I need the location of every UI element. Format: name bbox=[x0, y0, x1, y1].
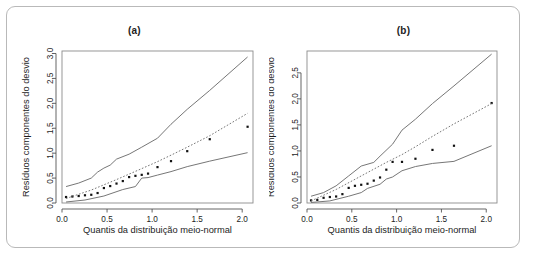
data-point bbox=[354, 185, 356, 187]
data-point bbox=[90, 194, 92, 196]
y-tick-label: 0.5 bbox=[46, 172, 55, 184]
panel-a-plot: 0.00.51.01.52.00.00.51.01.52.02.53.0Quan… bbox=[0, 0, 269, 261]
y-tick-label: 0.5 bbox=[291, 171, 300, 183]
y-axis-label: Resíduos componentes do desvio bbox=[269, 57, 276, 197]
x-tick-label: 1.0 bbox=[391, 215, 403, 224]
median-envelope bbox=[66, 113, 248, 198]
data-point bbox=[246, 126, 248, 128]
y-tick-label: 1.5 bbox=[291, 119, 300, 131]
panel-b: (b) 0.00.51.01.52.00.00.51.01.52.02.5Qua… bbox=[269, 0, 538, 261]
data-point bbox=[134, 175, 136, 177]
data-point bbox=[341, 193, 343, 195]
data-point bbox=[322, 197, 324, 199]
x-tick-label: 1.5 bbox=[436, 215, 448, 224]
data-point bbox=[348, 187, 350, 189]
data-point bbox=[103, 187, 105, 189]
x-tick-label: 0.5 bbox=[101, 215, 113, 224]
data-point bbox=[431, 149, 433, 151]
data-point bbox=[329, 196, 331, 198]
data-point bbox=[209, 138, 211, 140]
data-point bbox=[335, 195, 337, 197]
data-point bbox=[366, 183, 368, 185]
data-point bbox=[78, 195, 80, 197]
y-tick-label: 2.0 bbox=[291, 93, 300, 105]
data-point bbox=[385, 169, 387, 171]
x-tick-label: 0.0 bbox=[56, 215, 68, 224]
panel-a: (a) 0.00.51.01.52.00.00.51.01.52.02.53.0… bbox=[0, 0, 269, 261]
median-envelope bbox=[311, 104, 492, 201]
y-tick-label: 1.0 bbox=[291, 145, 300, 157]
data-point bbox=[379, 176, 381, 178]
data-point bbox=[316, 199, 318, 201]
data-point bbox=[186, 150, 188, 152]
lower-envelope bbox=[311, 146, 492, 203]
data-point bbox=[453, 145, 455, 147]
y-tick-label: 2.5 bbox=[291, 67, 300, 79]
panel-b-plot: 0.00.51.01.52.00.00.51.01.52.02.5Quantis… bbox=[269, 0, 538, 261]
data-point bbox=[96, 192, 98, 194]
y-tick-label: 2.0 bbox=[46, 97, 55, 109]
data-point bbox=[360, 184, 362, 186]
data-point bbox=[147, 172, 149, 174]
data-point bbox=[128, 176, 130, 178]
data-point bbox=[401, 161, 403, 163]
data-point bbox=[84, 194, 86, 196]
x-tick-label: 1.0 bbox=[146, 215, 158, 224]
y-tick-label: 0.0 bbox=[291, 197, 300, 209]
data-points bbox=[65, 126, 249, 198]
data-point bbox=[141, 174, 143, 176]
data-point bbox=[391, 161, 393, 163]
x-axis-label: Quantis da distribuição meio-normal bbox=[328, 225, 477, 235]
data-point bbox=[414, 158, 416, 160]
x-tick-label: 0.5 bbox=[346, 215, 358, 224]
lower-envelope bbox=[66, 153, 248, 202]
data-point bbox=[109, 185, 111, 187]
y-tick-label: 1.0 bbox=[46, 147, 55, 159]
x-axis-label: Quantis da distribuição meio-normal bbox=[83, 225, 232, 235]
x-tick-label: 2.0 bbox=[236, 215, 248, 224]
data-point bbox=[122, 180, 124, 182]
y-axis-label: Resíduos componentes do desvio bbox=[21, 57, 31, 197]
x-tick-label: 0.0 bbox=[301, 215, 313, 224]
y-tick-label: 0.0 bbox=[46, 197, 55, 209]
y-tick-label: 2.5 bbox=[46, 72, 55, 84]
x-tick-label: 1.5 bbox=[191, 215, 203, 224]
data-points bbox=[310, 102, 493, 202]
data-point bbox=[115, 182, 117, 184]
data-point bbox=[156, 166, 158, 168]
upper-envelope bbox=[311, 54, 492, 196]
data-point bbox=[373, 180, 375, 182]
x-tick-label: 2.0 bbox=[481, 215, 493, 224]
y-tick-label: 1.5 bbox=[46, 122, 55, 134]
data-point bbox=[170, 160, 172, 162]
y-tick-label: 3.0 bbox=[46, 47, 55, 59]
